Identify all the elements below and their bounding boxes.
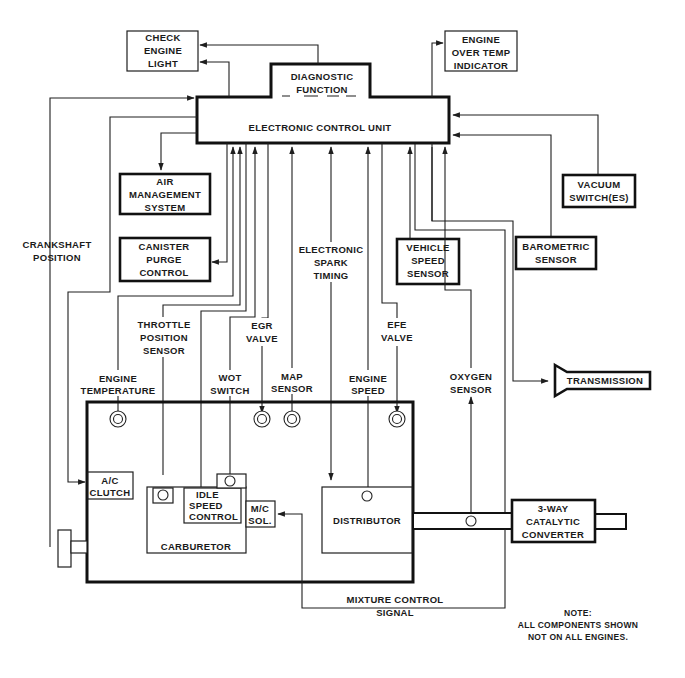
tps-label-3: SENSOR — [143, 345, 185, 356]
check-engine-label-2: ENGINE — [144, 45, 182, 56]
vss-label-3: SENSOR — [407, 268, 449, 279]
engine-temperature-port — [110, 411, 126, 427]
vacuum-switch-line — [453, 115, 598, 175]
efe-valve-port — [389, 411, 405, 427]
isc-label-1: IDLE — [196, 489, 219, 500]
eng-temp-label-2: TEMPERATURE — [81, 385, 156, 396]
vss-label-2: SPEED — [411, 255, 445, 266]
transmission-box: TRANSMISSION — [555, 365, 650, 396]
cat-label-3: CONVERTER — [522, 529, 584, 540]
isc-label-3: CONTROL — [189, 511, 238, 522]
wot-switch-port — [217, 474, 246, 488]
vacuum-label-1: VACUUM — [578, 179, 621, 190]
map-label-2: SENSOR — [271, 383, 313, 394]
over-temp-label-3: INDICATOR — [454, 60, 509, 71]
vacuum-label-2: SWITCH(ES) — [569, 192, 628, 203]
diagnostic-label-2: FUNCTION — [296, 84, 347, 95]
note-title: NOTE: — [564, 608, 592, 618]
wot-label-1: WOT — [218, 372, 241, 383]
ac-clutch-box: A/C CLUTCH — [88, 472, 133, 499]
barometric-sensor-box: BAROMETRIC SENSOR — [516, 237, 596, 269]
est-label-2: SPARK — [314, 257, 348, 268]
air-mgmt-label-2: MANAGEMENT — [129, 189, 201, 200]
mixture-label-1: MIXTURE CONTROL — [347, 594, 444, 605]
ecu-label: ELECTRONIC CONTROL UNIT — [249, 122, 392, 133]
crankshaft-label-1: CRANKSHAFT — [23, 239, 92, 250]
vacuum-switches-box: VACUUM SWITCH(ES) — [563, 175, 635, 207]
idle-speed-control-box: IDLE SPEED CONTROL — [184, 488, 241, 523]
baro-label-1: BAROMETRIC — [522, 241, 589, 252]
efe-label-2: VALVE — [381, 332, 413, 343]
canister-label-3: CONTROL — [139, 267, 188, 278]
egr-label-1: EGR — [251, 320, 273, 331]
distributor-box: DISTRIBUTOR — [322, 487, 412, 553]
ac-label-2: CLUTCH — [90, 487, 131, 498]
diagnostic-label-1: DIAGNOSTIC — [291, 71, 354, 82]
diag-to-check-engine-arrow — [200, 45, 318, 64]
ecu-to-air-management-arrow — [161, 133, 197, 170]
map-sensor-port — [284, 411, 300, 427]
distributor-label: DISTRIBUTOR — [333, 515, 401, 526]
canister-label-1: CANISTER — [139, 241, 190, 252]
cat-label-2: CATALYTIC — [526, 516, 580, 527]
wot-label-2: SWITCH — [210, 385, 249, 396]
crankshaft-label-2: POSITION — [33, 252, 81, 263]
cat-label-1: 3-WAY — [538, 503, 569, 514]
canister-purge-control-box: CANISTER PURGE CONTROL — [120, 238, 210, 281]
vss-label-1: VEHICLE — [406, 242, 449, 253]
mc-label-1: M/C — [251, 503, 269, 514]
check-engine-label-3: LIGHT — [148, 58, 178, 69]
ac-label-1: A/C — [101, 475, 118, 486]
egr-valve-line — [262, 143, 268, 413]
mixture-label-2: SIGNAL — [376, 607, 414, 618]
ecu-to-canister-purge-arrow — [212, 143, 227, 262]
canister-label-2: PURGE — [146, 254, 181, 265]
ecu-to-check-engine-arrow — [200, 62, 229, 97]
efe-label-1: EFE — [387, 319, 406, 330]
crankshaft-pulley — [58, 530, 87, 567]
wot-switch-line — [230, 147, 255, 477]
tps-label-2: POSITION — [140, 332, 188, 343]
note-line-1: ALL COMPONENTS SHOWN — [518, 620, 639, 630]
air-mgmt-label-3: SYSTEM — [145, 202, 186, 213]
note: NOTE: ALL COMPONENTS SHOWN NOT ON ALL EN… — [518, 608, 639, 642]
carburetor-label: CARBURETOR — [161, 541, 231, 552]
oxygen-label-2: SENSOR — [450, 384, 492, 395]
o2-signal-line — [415, 144, 505, 530]
mc-label-2: SOL. — [248, 515, 271, 526]
vehicle-speed-sensor-box: VEHICLE SPEED SENSOR — [397, 239, 459, 284]
catalytic-converter-box: 3-WAY CATALYTIC CONVERTER — [512, 500, 595, 542]
air-mgmt-label-1: AIR — [156, 176, 173, 187]
over-temp-label-2: OVER TEMP — [452, 47, 511, 58]
ecu-to-over-temp-arrow — [432, 43, 443, 97]
isc-label-2: SPEED — [189, 500, 223, 511]
est-label-1: ELECTRONIC — [299, 244, 364, 255]
note-line-2: NOT ON ALL ENGINES. — [528, 632, 628, 642]
over-temp-label-1: ENGINE — [462, 34, 500, 45]
mc-solenoid-box: M/C SOL. — [246, 501, 275, 527]
oxygen-label-1: OXYGEN — [450, 371, 492, 382]
engine-over-temp-indicator-box: ENGINE OVER TEMP INDICATOR — [445, 31, 517, 71]
ecu-system-diagram: ELECTRONIC CONTROL UNIT DIAGNOSTIC FUNCT… — [0, 0, 685, 678]
eng-temp-label-1: ENGINE — [99, 373, 137, 384]
check-engine-light-box: CHECK ENGINE LIGHT — [127, 31, 198, 71]
eng-speed-label-1: ENGINE — [349, 373, 387, 384]
air-management-system-box: AIR MANAGEMENT SYSTEM — [120, 174, 210, 214]
throttle-position-port — [153, 488, 173, 503]
egr-label-2: VALVE — [246, 333, 278, 344]
electronic-control-unit: ELECTRONIC CONTROL UNIT DIAGNOSTIC FUNCT… — [197, 64, 449, 143]
check-engine-label-1: CHECK — [145, 32, 180, 43]
map-label-1: MAP — [281, 371, 303, 382]
barometric-line — [453, 135, 551, 237]
tps-label-1: THROTTLE — [137, 319, 190, 330]
baro-label-2: SENSOR — [535, 254, 577, 265]
egr-valve-port — [254, 411, 270, 427]
transmission-label: TRANSMISSION — [567, 375, 643, 386]
eng-speed-label-2: SPEED — [351, 385, 385, 396]
est-label-3: TIMING — [313, 270, 348, 281]
